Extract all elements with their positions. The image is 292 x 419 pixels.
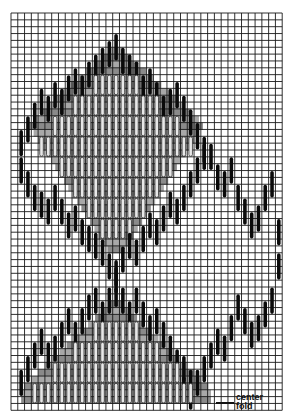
center-fold-label: center fold [236, 393, 263, 411]
fold-label: fold [236, 402, 263, 411]
needlepoint-chart [0, 0, 292, 419]
center-fold-marker [216, 402, 234, 404]
